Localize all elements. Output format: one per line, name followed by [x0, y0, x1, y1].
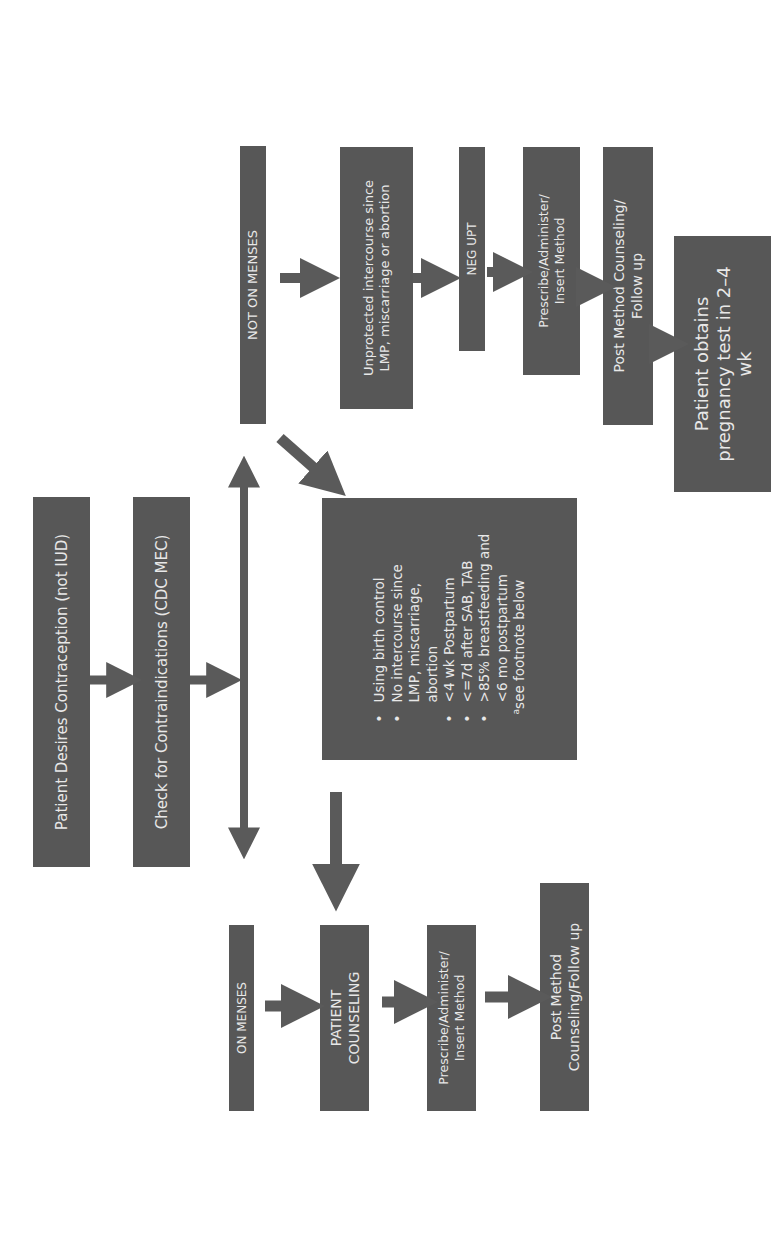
- node-label-line-1: Patient obtains: [690, 266, 712, 461]
- node-patient-desires-contraception: Patient Desires Contraception (not IUD): [33, 497, 90, 867]
- node-label-line-2: Counseling/Follow up: [565, 923, 583, 1071]
- arrow-not-on-menses-to-criteria: [280, 438, 331, 483]
- node-label-line-1: Prescribe/Administer/: [536, 194, 552, 327]
- node-label-line-1: Unprotected intercourse since: [360, 180, 376, 376]
- criteria-item: Using birth control: [370, 534, 388, 725]
- criteria-bullet-list: Using birth control No intercourse since…: [370, 534, 528, 725]
- criteria-item: <4 wk Postpartum: [440, 534, 458, 725]
- node-prescribe-right: Prescribe/Administer/ Insert Method: [523, 147, 580, 375]
- criteria-item-continuation: abortion: [423, 534, 441, 725]
- node-criteria-list: Using birth control No intercourse since…: [322, 498, 577, 760]
- node-neg-upt: NEG UPT: [459, 147, 485, 351]
- node-label: ON MENSES: [234, 982, 249, 1054]
- node-label-line-2: Insert Method: [552, 194, 568, 327]
- node-label-line-1: PATIENT: [327, 972, 345, 1065]
- node-label-line-1: Post Method: [547, 923, 565, 1071]
- node-post-method-right: Post Method Counseling/ Follow up: [603, 147, 653, 425]
- node-label-line-1: Prescribe/Administer/: [436, 951, 452, 1084]
- node-label: NEG UPT: [465, 222, 480, 275]
- node-label-line-2: Follow up: [628, 200, 646, 373]
- node-not-on-menses: NOT ON MENSES: [240, 146, 266, 424]
- criteria-footnote: asee footnote below: [511, 534, 529, 725]
- node-on-menses: ON MENSES: [229, 925, 254, 1111]
- node-label-line-2: pregnancy test in 2–4: [712, 266, 734, 461]
- node-label: Check for Contraindications (CDC MEC): [152, 535, 171, 830]
- node-label-line-3: wk: [733, 266, 755, 461]
- node-label-line-2: Insert Method: [452, 951, 468, 1084]
- footnote-marker: a: [511, 709, 521, 715]
- node-label: NOT ON MENSES: [245, 230, 261, 340]
- node-pregnancy-test: Patient obtains pregnancy test in 2–4 wk: [674, 236, 771, 492]
- node-check-contraindications: Check for Contraindications (CDC MEC): [133, 497, 190, 867]
- criteria-item-continuation: <6 mo postpartum: [493, 534, 511, 725]
- node-label-line-1: Post Method Counseling/: [611, 200, 629, 373]
- footnote-text: see footnote below: [511, 580, 527, 709]
- criteria-item: <=7d after SAB, TAB: [458, 534, 476, 725]
- node-patient-counseling: PATIENT COUNSELING: [320, 925, 369, 1111]
- criteria-item-continuation: LMP, miscarriage,: [405, 534, 423, 725]
- node-unprotected-intercourse: Unprotected intercourse since LMP, misca…: [340, 147, 413, 409]
- node-label-line-2: LMP, miscarriage or abortion: [377, 180, 393, 376]
- node-label-line-2: COUNSELING: [345, 972, 363, 1065]
- node-prescribe-left: Prescribe/Administer/ Insert Method: [427, 925, 476, 1111]
- node-post-method-left: Post Method Counseling/Follow up: [540, 883, 589, 1111]
- node-label: Patient Desires Contraception (not IUD): [52, 534, 71, 830]
- criteria-item: >85% breastfeeding and: [476, 534, 494, 725]
- criteria-item: No intercourse since: [388, 534, 406, 725]
